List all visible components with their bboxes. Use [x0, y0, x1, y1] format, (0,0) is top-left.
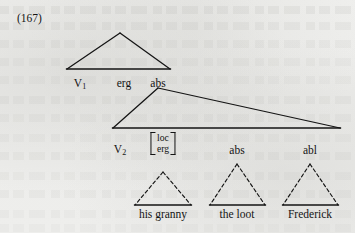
upper-clause-triangle: [66, 33, 170, 69]
node-label-abs-top: abs: [150, 78, 165, 90]
bracket-right: [171, 132, 176, 155]
node-label-v1: V1: [74, 78, 86, 91]
lower-clause-triangle: [112, 88, 340, 128]
frederick-triangle: [283, 164, 339, 205]
feature-erg: erg: [157, 144, 169, 155]
the-loot-triangle: [210, 164, 266, 205]
node-label-erg: erg: [117, 78, 131, 90]
node-label-v2: V2: [114, 144, 126, 157]
terminal-frederick: Frederick: [288, 209, 332, 221]
terminal-his-granny: his granny: [139, 209, 187, 221]
node-label-abl: abl: [303, 145, 317, 157]
node-label-abs-mid: abs: [229, 145, 244, 157]
example-number: (167): [17, 13, 42, 25]
his-granny-triangle: [135, 172, 192, 205]
tree-geometry: [0, 0, 355, 233]
terminal-the-loot: the loot: [220, 209, 255, 221]
feature-rows: loc erg: [155, 132, 170, 155]
figure-page: (167) V1 erg abs V2 loc erg abs abl his …: [0, 0, 355, 233]
feature-matrix-loc-erg: loc erg: [150, 132, 175, 155]
